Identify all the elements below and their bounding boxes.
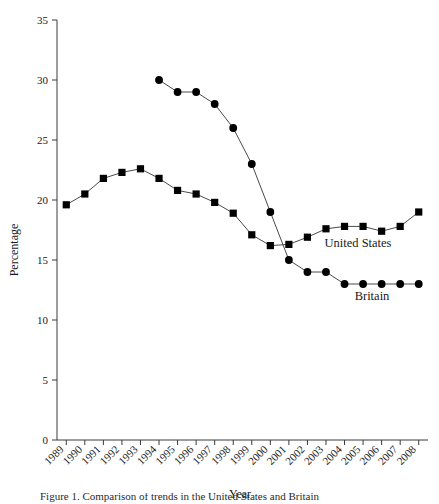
x-tick-label: 1989 [42,443,66,467]
x-tick-label: 2003 [301,443,325,467]
data-point-marker [304,234,311,241]
x-tick-label: 2000 [246,443,270,467]
y-axis-title: Percentage [7,224,21,277]
y-tick-label: 20 [37,194,49,206]
line-chart: 05101520253035 1989199019911992199319941… [0,0,439,504]
y-axis-ticks: 05101520253035 [37,14,57,446]
x-tick-label: 1999 [227,443,251,467]
x-axis-ticks: 1989199019911992199319941995199619971998… [42,440,419,467]
x-tick-label: 1993 [116,443,140,467]
y-tick-label: 25 [37,134,49,146]
x-tick-label: 2007 [376,443,400,467]
data-series-group [63,76,423,288]
data-point-marker [248,160,256,168]
y-tick-label: 35 [37,14,49,26]
x-tick-label: 1990 [60,443,84,467]
data-point-marker [230,210,237,217]
data-point-marker [100,175,107,182]
data-point-marker [341,223,348,230]
data-point-marker [229,124,237,132]
data-point-marker [397,223,404,230]
data-point-marker [193,190,200,197]
data-point-marker [378,280,386,288]
y-tick-label: 10 [37,314,49,326]
data-point-marker [211,199,218,206]
chart-container: 05101520253035 1989199019911992199319941… [0,0,439,504]
x-tick-label: 1991 [79,443,103,467]
data-point-marker [174,88,182,96]
data-point-marker [359,223,366,230]
x-tick-label: 2005 [338,443,362,467]
y-tick-label: 5 [43,374,49,386]
data-point-marker [304,268,312,276]
data-point-marker [155,175,162,182]
data-point-marker [359,280,367,288]
y-tick-label: 0 [43,434,49,446]
data-point-marker [415,208,422,215]
data-point-marker [322,268,330,276]
x-tick-label: 1998 [209,443,233,467]
data-point-marker [285,256,293,264]
series-labels-group: United StatesBritain [324,236,391,303]
series-label-united-states: United States [324,236,391,250]
data-point-marker [63,201,70,208]
x-tick-label: 1994 [134,443,158,467]
x-tick-label: 1995 [153,443,177,467]
data-point-marker [267,242,274,249]
data-point-marker [415,280,423,288]
chart-axes [57,20,428,440]
x-tick-label: 2004 [320,443,344,467]
y-tick-label: 15 [37,254,49,266]
data-point-marker [322,225,329,232]
data-point-marker [285,241,292,248]
data-point-marker [378,228,385,235]
series-line-1 [66,169,418,246]
data-point-marker [137,165,144,172]
x-tick-label: 1997 [190,443,214,467]
x-tick-label: 1992 [97,443,121,467]
data-point-marker [396,280,404,288]
series-line-2 [159,80,419,284]
data-point-marker [341,280,349,288]
x-tick-label: 2006 [357,443,381,467]
data-point-marker [248,231,255,238]
y-tick-label: 30 [37,74,49,86]
x-tick-label: 2002 [283,443,307,467]
data-point-marker [266,208,274,216]
data-point-marker [155,76,163,84]
x-tick-label: 2008 [394,443,418,467]
data-point-marker [81,190,88,197]
data-point-marker [174,187,181,194]
figure-caption: Figure 1. Comparison of trends in the Un… [0,493,439,504]
data-point-marker [211,100,219,108]
x-tick-label: 2001 [264,443,288,467]
x-tick-label: 1996 [171,443,195,467]
data-point-marker [192,88,200,96]
series-label-britain: Britain [355,289,390,303]
caption-label: Figure 1. Comparison of trends in the Un… [40,493,319,502]
data-point-marker [118,169,125,176]
